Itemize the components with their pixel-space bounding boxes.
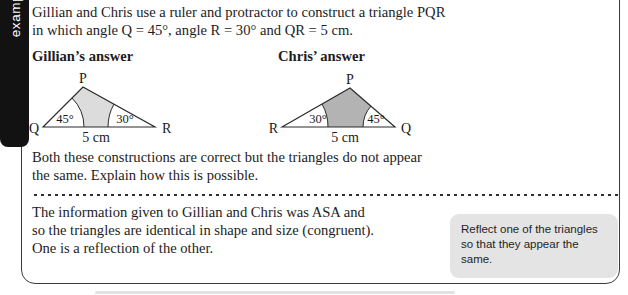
textbook-example-page: example Gillian and Chris use a ruler an…	[0, 0, 628, 295]
solution-line-2: so the triangles are identical in shape …	[32, 221, 374, 239]
vertex-label-p: P	[346, 72, 354, 87]
question-line-2: the same. Explain how this is possible.	[32, 166, 422, 184]
vertex-label-r: R	[269, 121, 279, 136]
vertex-label-r: R	[162, 121, 172, 136]
right-angle-label: 45°	[367, 112, 385, 126]
hint-callout: Reflect one of the triangles so that the…	[450, 214, 618, 278]
problem-line-1: Gillian and Chris use a ruler and protra…	[32, 3, 445, 21]
gillian-triangle-figure: P Q R 45° 30° 5 cm	[25, 70, 225, 145]
left-angle-label: 30°	[309, 112, 327, 126]
vertex-label-p: P	[79, 71, 87, 86]
left-angle-label: 45°	[56, 112, 74, 126]
example-tab-label: example	[7, 0, 22, 37]
question-text: Both these constructions are correct but…	[32, 148, 422, 184]
solution-line-3: One is a reflection of the other.	[32, 239, 374, 257]
base-length-label: 5 cm	[82, 130, 110, 145]
hint-callout-text: Reflect one of the triangles so that the…	[461, 223, 598, 265]
chris-answer-heading: Chris’ answer	[278, 47, 365, 65]
page-artifact-line	[95, 291, 455, 294]
solution-line-1: The information given to Gillian and Chr…	[32, 203, 374, 221]
dotted-separator	[32, 193, 618, 197]
problem-statement: Gillian and Chris use a ruler and protra…	[32, 3, 445, 39]
vertex-label-q: Q	[401, 121, 411, 136]
base-length-label: 5 cm	[331, 130, 359, 145]
solution-text: The information given to Gillian and Chr…	[32, 203, 374, 257]
right-angle-label: 30°	[116, 112, 134, 126]
example-tab: example	[0, 0, 29, 147]
chris-triangle-figure: P R Q 30° 45° 5 cm	[240, 70, 440, 145]
question-line-1: Both these constructions are correct but…	[32, 148, 422, 166]
problem-line-2: in which angle Q = 45°, angle R = 30° an…	[32, 21, 445, 39]
gillian-answer-heading: Gillian’s answer	[32, 47, 133, 65]
vertex-label-q: Q	[29, 121, 39, 136]
